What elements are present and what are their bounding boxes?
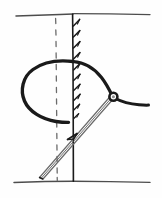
needle-eye <box>109 93 117 101</box>
illustration-canvas: Stitch and needle diagram <box>0 0 162 198</box>
figure-svg <box>0 0 162 198</box>
needle-eye-hole <box>112 95 115 98</box>
vertical-seam-line <box>73 14 74 181</box>
